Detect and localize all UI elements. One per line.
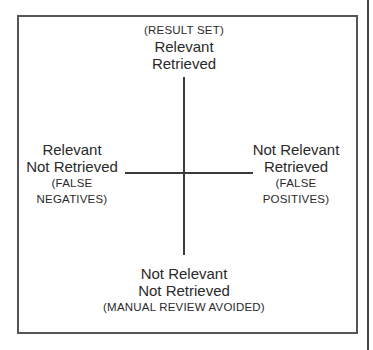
horizontal-axis-line <box>125 172 253 174</box>
right-line1: Not Relevant <box>236 141 356 158</box>
result-set-note: (RESULT SET) <box>104 22 264 38</box>
false-negatives-note-1: (FALSE <box>12 175 132 191</box>
false-positives-note-2: POSITIVES) <box>236 191 356 207</box>
manual-review-avoided-note: (MANUAL REVIEW AVOIDED) <box>74 299 294 315</box>
quadrant-relevant-retrieved: (RESULT SET) Relevant Retrieved <box>104 22 264 72</box>
left-line1: Relevant <box>12 141 132 158</box>
top-line1: Relevant <box>104 38 264 55</box>
right-line2: Retrieved <box>236 158 356 175</box>
quadrant-not-relevant-not-retrieved: Not Relevant Not Retrieved (MANUAL REVIE… <box>74 265 294 315</box>
false-positives-note-1: (FALSE <box>236 175 356 191</box>
quadrant-not-relevant-retrieved: Not Relevant Retrieved (FALSE POSITIVES) <box>236 141 356 207</box>
page-edge-line <box>367 0 369 350</box>
bottom-line2: Not Retrieved <box>74 282 294 299</box>
bottom-line1: Not Relevant <box>74 265 294 282</box>
quadrant-relevant-not-retrieved: Relevant Not Retrieved (FALSE NEGATIVES) <box>12 141 132 207</box>
top-line2: Retrieved <box>104 55 264 72</box>
vertical-axis-line <box>183 77 185 255</box>
false-negatives-note-2: NEGATIVES) <box>12 191 132 207</box>
left-line2: Not Retrieved <box>12 158 132 175</box>
